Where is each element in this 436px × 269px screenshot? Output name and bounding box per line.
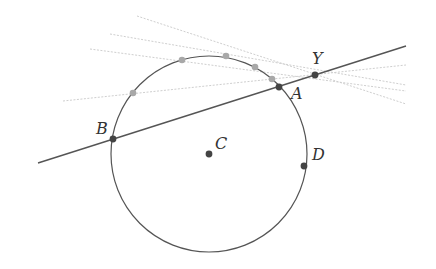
label-C: C: [215, 134, 227, 153]
point-D: [301, 163, 308, 170]
point-C: [206, 151, 213, 158]
label-D: D: [311, 145, 325, 164]
dashed-line-1: [90, 49, 406, 91]
point-A: [276, 84, 283, 91]
geometry-diagram: YABCD: [0, 0, 436, 269]
grey-point-0: [130, 90, 137, 97]
label-B: B: [95, 119, 108, 138]
dashed-line-3: [137, 16, 406, 104]
grey-point-1: [179, 57, 186, 64]
dashed-line-0: [63, 65, 406, 101]
point-Y: [312, 72, 319, 79]
point-B: [110, 136, 117, 143]
label-A: A: [289, 84, 303, 103]
labeled-points: [110, 72, 319, 170]
dashed-tangent-lines: [63, 16, 406, 104]
grey-point-3: [252, 64, 259, 71]
grey-point-2: [223, 53, 230, 60]
label-Y: Y: [312, 49, 324, 68]
grey-point-4: [269, 76, 276, 83]
